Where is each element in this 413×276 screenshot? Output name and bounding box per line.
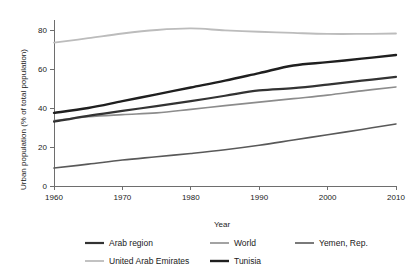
legend-label: Arab region <box>109 238 153 248</box>
chart-legend: Arab regionWorldYemen, Rep.United Arab E… <box>85 238 368 266</box>
y-tick-label: 20 <box>38 143 47 152</box>
legend-label: Tunisia <box>234 256 261 266</box>
x-tick-label: 1990 <box>250 193 268 202</box>
x-tick-label: 1980 <box>182 193 200 202</box>
y-axis-title: Urban population (% of total population) <box>19 49 28 190</box>
y-tick-label: 80 <box>38 26 47 35</box>
series-line <box>54 55 396 113</box>
series-lines <box>54 28 396 168</box>
x-tick-label: 1960 <box>45 193 63 202</box>
x-axis: 196019701980199020002010 <box>45 186 405 202</box>
legend-label: Yemen, Rep. <box>319 238 368 248</box>
x-axis-title: Year <box>214 220 231 229</box>
legend-label: World <box>234 238 256 248</box>
y-tick-label: 60 <box>38 65 47 74</box>
series-line <box>54 28 396 42</box>
x-tick-label: 1970 <box>114 193 132 202</box>
legend-label: United Arab Emirates <box>109 256 189 266</box>
line-chart: Urban population (% of total population)… <box>0 0 413 276</box>
y-tick-label: 0 <box>43 182 48 191</box>
x-tick-label: 2010 <box>387 193 405 202</box>
chart-figure: Urban population (% of total population)… <box>0 0 413 276</box>
y-tick-label: 40 <box>38 104 47 113</box>
x-tick-label: 2000 <box>319 193 337 202</box>
series-line <box>54 124 396 168</box>
y-axis: 020406080 <box>38 20 54 191</box>
